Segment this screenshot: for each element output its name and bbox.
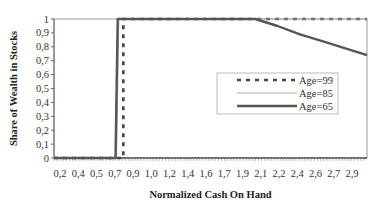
x-tick-label: 2,7 (327, 168, 340, 179)
y-tick-label: 0,7 (36, 55, 49, 66)
y-tick-label: 0,3 (36, 111, 49, 122)
x-tick-label: 2,1 (254, 168, 267, 179)
y-tick-label: 0,1 (36, 139, 49, 150)
x-tick-label: 2,2 (272, 168, 285, 179)
y-tick-label: 0 (44, 153, 49, 164)
y-tick-label: 1 (44, 14, 49, 25)
legend-label: Age=65 (299, 101, 333, 112)
x-tick-label: 0,9 (126, 168, 139, 179)
x-tick-label: 1,4 (181, 168, 195, 179)
x-tick-label: 1,2 (163, 168, 176, 179)
x-tick-label: 2,9 (345, 168, 358, 179)
x-tick-label: 2,4 (291, 168, 305, 179)
x-tick-label: 2,6 (309, 168, 322, 179)
legend-label: Age=99 (299, 75, 333, 86)
legend-label: Age=85 (299, 88, 333, 99)
chart: 00,10,20,30,40,50,60,70,80,910,20,40,50,… (0, 0, 383, 207)
x-tick-label: 1,9 (236, 168, 249, 179)
x-tick-label: 1,0 (145, 168, 158, 179)
x-axis-title: Normalized Cash On Hand (149, 189, 271, 200)
x-tick-label: 1,6 (199, 168, 212, 179)
y-tick-label: 0,2 (36, 125, 49, 136)
y-tick-label: 0,8 (36, 41, 49, 52)
x-tick-label: 0,4 (72, 168, 86, 179)
y-tick-label: 0,5 (36, 83, 49, 94)
x-tick-label: 0,2 (53, 168, 66, 179)
y-tick-label: 0,6 (36, 69, 49, 80)
x-tick-label: 0,7 (108, 168, 121, 179)
x-tick-label: 0,5 (90, 168, 103, 179)
y-tick-label: 0,4 (36, 97, 50, 108)
x-tick-label: 1,7 (218, 168, 231, 179)
y-tick-label: 0,9 (36, 27, 49, 38)
y-axis-title: Share of Wealth in Stocks (8, 31, 19, 146)
